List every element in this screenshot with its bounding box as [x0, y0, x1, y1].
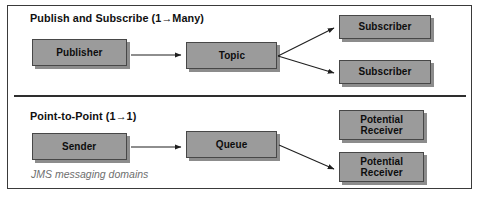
node-potential-receiver-1-label: Potential Receiver: [360, 114, 403, 137]
node-sender-label: Sender: [62, 141, 96, 153]
node-subscriber-2: Subscriber: [339, 60, 431, 84]
node-queue: Queue: [186, 131, 277, 158]
node-subscriber-1: Subscriber: [339, 15, 431, 39]
section-divider: [14, 95, 466, 97]
node-subscriber-1-label: Subscriber: [358, 21, 411, 33]
node-topic-label: Topic: [218, 50, 244, 62]
node-publisher-label: Publisher: [56, 47, 102, 59]
node-sender: Sender: [32, 133, 127, 160]
node-potential-receiver-2: Potential Receiver: [339, 152, 424, 182]
jms-messaging-domains-figure: Publish and Subscribe (1→Many) Publisher…: [0, 0, 481, 201]
node-topic: Topic: [186, 42, 277, 69]
node-subscriber-2-label: Subscriber: [358, 66, 411, 78]
section-title-publish-subscribe: Publish and Subscribe (1→Many): [30, 12, 204, 24]
section-title-point-to-point: Point-to-Point (1→1): [30, 110, 136, 122]
node-queue-label: Queue: [216, 139, 248, 151]
node-potential-receiver-2-label: Potential Receiver: [360, 156, 403, 179]
node-potential-receiver-1: Potential Receiver: [339, 110, 424, 140]
figure-caption: JMS messaging domains: [31, 168, 148, 180]
node-publisher: Publisher: [32, 39, 127, 66]
